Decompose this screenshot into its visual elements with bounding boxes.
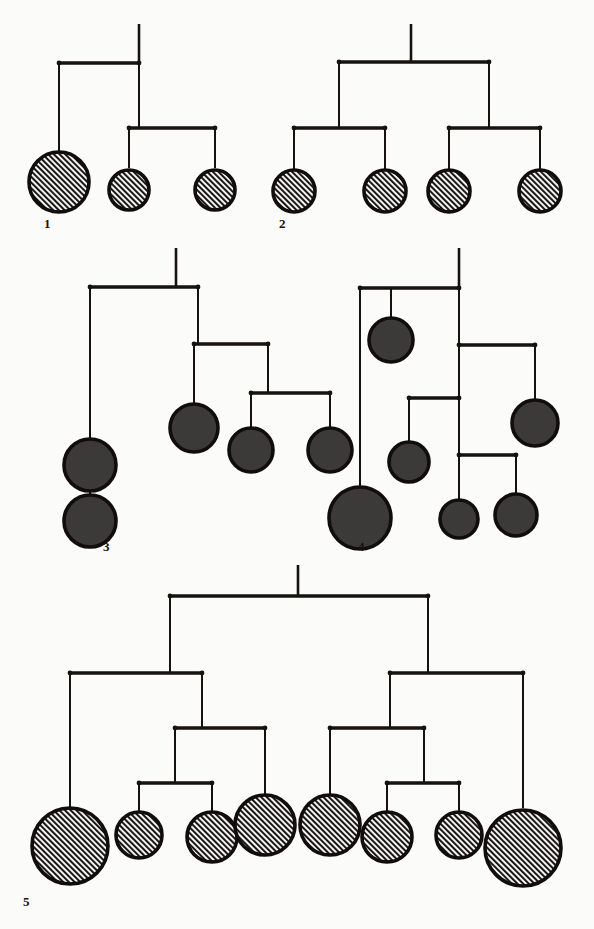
bar-R1-end-right (521, 671, 526, 676)
bar-L1-end-left (68, 671, 73, 676)
bar-L3-end-left (137, 781, 142, 786)
bar-R3-end-left (385, 781, 390, 786)
bar-root-end-right (487, 60, 492, 65)
disc-5c (187, 812, 237, 862)
disc-5d (235, 795, 295, 855)
bar-root-end-left (337, 60, 342, 65)
disc-5h (485, 810, 561, 886)
figure-plate: 12345 (0, 0, 594, 929)
disc-4-mid (389, 442, 429, 482)
disc-5f (362, 812, 412, 862)
bar-R3-end-right (457, 781, 462, 786)
disc-1b (109, 170, 149, 210)
bar-R2-end-left (328, 726, 333, 731)
disc-2a (273, 170, 315, 212)
disc-1c (195, 170, 235, 210)
bar-mid-end-left (192, 342, 197, 347)
bar-L3-end-right (210, 781, 215, 786)
bar-root-end-left (88, 285, 93, 290)
disc-4-e (440, 500, 478, 538)
disc-4-top (369, 318, 413, 362)
bar-R1-end-left (388, 671, 393, 676)
bar-low-end-right (328, 391, 333, 396)
bar-third-end-left (407, 396, 412, 401)
bar-left-end-left (292, 126, 297, 131)
mobile-diagram-svg: 12345 (0, 0, 594, 929)
bar-L1-end-right (200, 671, 205, 676)
disc-5g (436, 812, 482, 858)
bar-second-end-left (457, 343, 462, 348)
bar-mid-end-right (266, 342, 271, 347)
mobile-1-label: 1 (44, 216, 51, 231)
bar-root-end-right (196, 285, 201, 290)
bar-right-end-left (127, 126, 132, 131)
bar-L2-end-right (263, 726, 268, 731)
bar-second-end-right (533, 343, 538, 348)
disc-1a (29, 152, 89, 212)
disc-2c (428, 170, 470, 212)
bar-R2-end-right (422, 726, 427, 731)
disc-3d (308, 428, 352, 472)
mobile-5-label: 5 (23, 894, 30, 909)
disc-5e (300, 795, 360, 855)
bar-right-end-right (538, 126, 543, 131)
disc-5a (32, 808, 108, 884)
mobile-4-label: 4 (358, 539, 365, 554)
bar-root-end-right (137, 61, 142, 66)
bar-third-end-right (457, 396, 462, 401)
disc-4-f (495, 494, 537, 536)
bar-L2-end-left (173, 726, 178, 731)
disc-3b (170, 404, 218, 452)
bar-right-end-right (213, 126, 218, 131)
bar-root-end-left (168, 594, 173, 599)
bar-low-end-left (249, 391, 254, 396)
bar-fourth-end-left (457, 453, 462, 458)
bar-root-end-left (358, 286, 363, 291)
disc-2b (364, 170, 406, 212)
bar-fourth-end-right (514, 453, 519, 458)
disc-4-right (512, 400, 558, 446)
disc-3a (64, 439, 116, 491)
mobile-3-label: 3 (103, 539, 110, 554)
bar-root-end-right (457, 286, 462, 291)
disc-5b (116, 812, 162, 858)
mobile-2-label: 2 (279, 216, 286, 231)
disc-3c (229, 428, 273, 472)
bar-root-end-left (57, 61, 62, 66)
bar-left-end-right (383, 126, 388, 131)
bar-root-end-right (426, 594, 431, 599)
bar-right-end-left (447, 126, 452, 131)
disc-2d (519, 170, 561, 212)
